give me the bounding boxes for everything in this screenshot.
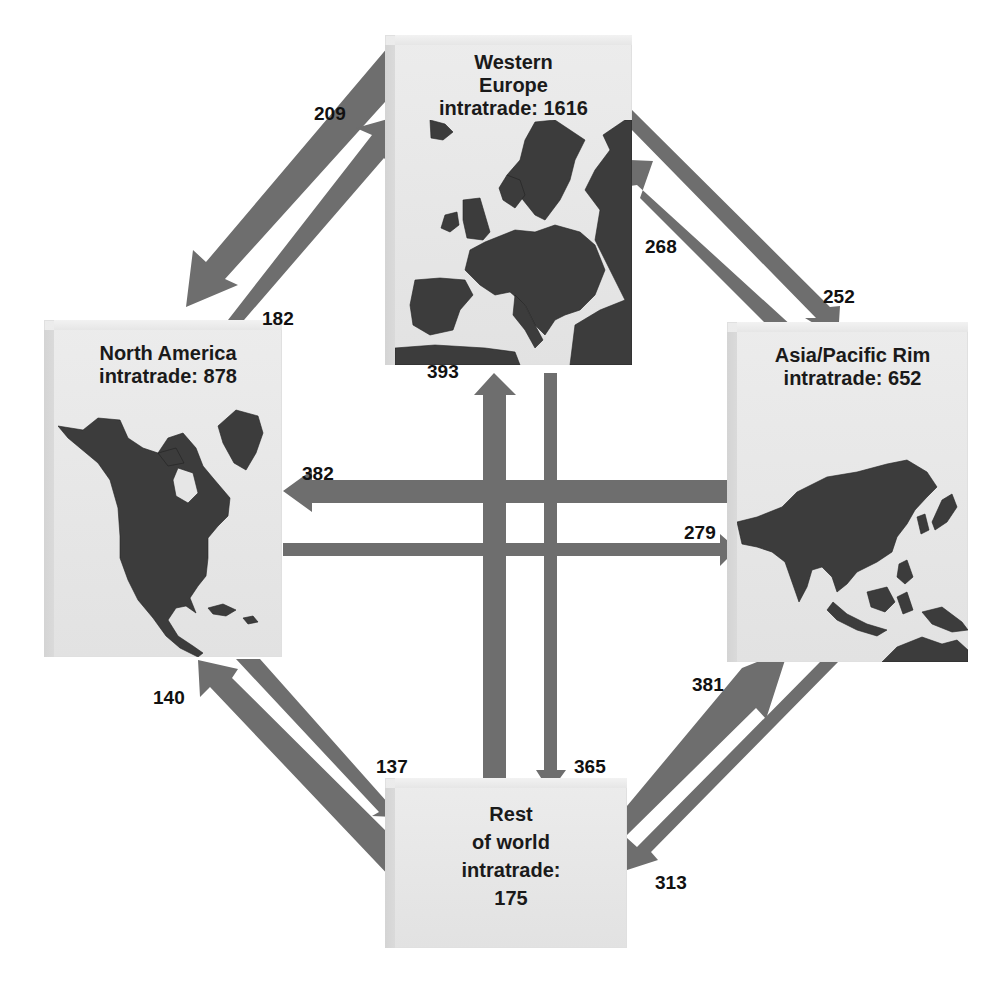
trade-flow-diagram: Western Europe intratrade: 1616 North	[0, 0, 1004, 985]
flow-label-north-america-to-europe: 182	[262, 309, 294, 329]
flow-label-rest-to-asia: 381	[692, 675, 724, 695]
flow-label-rest-to-north-america: 140	[153, 688, 185, 708]
flow-label-rest-to-europe: 393	[427, 362, 459, 382]
box-top-edge	[395, 35, 632, 45]
flow-label-north-america-to-rest: 137	[376, 757, 408, 777]
flow-label-asia-to-north-america: 382	[302, 464, 334, 484]
region-title: Rest of world intratrade: 175	[395, 800, 627, 912]
flow-label-europe-to-asia: 252	[823, 287, 855, 307]
flow-label-asia-to-rest: 313	[655, 873, 687, 893]
arrow-europe-to-asia	[630, 108, 840, 338]
region-title: North America intratrade: 878	[54, 342, 282, 388]
box-top-edge	[54, 320, 282, 330]
flow-label-north-america-to-asia: 279	[684, 523, 716, 543]
arrow-europe-to-rest	[536, 373, 566, 792]
box-side-edge	[44, 330, 54, 657]
box-side-edge	[385, 788, 395, 948]
asia-pacific-map-icon	[737, 452, 968, 662]
region-title: Asia/Pacific Rim intratrade: 652	[737, 344, 968, 390]
region-north-america: North America intratrade: 878	[44, 320, 282, 657]
region-title: Western Europe intratrade: 1616	[395, 51, 632, 120]
box-top-edge	[737, 322, 968, 332]
flow-label-asia-to-europe: 268	[645, 237, 677, 257]
arrow-rest-to-north-america	[198, 660, 393, 880]
arrow-rest-to-europe	[474, 373, 516, 788]
arrow-north-america-to-asia	[283, 534, 737, 566]
flow-label-europe-to-rest: 365	[574, 757, 606, 777]
flow-label-europe-to-north-america: 209	[314, 104, 346, 124]
arrow-asia-to-north-america	[283, 470, 735, 512]
north-america-map-icon	[58, 408, 282, 657]
region-asia-pacific-rim: Asia/Pacific Rim intratrade: 652	[727, 322, 968, 662]
box-side-edge	[727, 332, 737, 662]
box-side-edge	[385, 45, 395, 365]
region-rest-of-world: Rest of world intratrade: 175	[385, 778, 627, 948]
europe-map-icon	[395, 120, 632, 365]
box-top-edge	[395, 778, 627, 788]
region-western-europe: Western Europe intratrade: 1616	[385, 35, 632, 365]
